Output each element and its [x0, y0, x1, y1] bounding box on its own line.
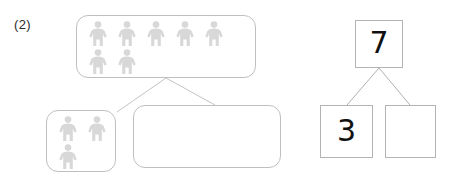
- person-icon: [203, 20, 225, 47]
- person-icon: [87, 48, 109, 75]
- icon-row: [57, 115, 107, 142]
- number-bond-whole-box: 7: [355, 20, 403, 68]
- problem-number-label: (2): [14, 18, 31, 31]
- picture-connector-right: [166, 78, 215, 105]
- number-bond-part-a-box: 3: [320, 105, 373, 158]
- bond-connector-left: [347, 68, 379, 105]
- person-icon: [116, 20, 138, 47]
- worksheet-canvas: (2): [0, 0, 455, 179]
- icon-row: [87, 20, 247, 47]
- number-bond-part-a-value: 3: [337, 116, 356, 146]
- part-right-icon-grid: [134, 106, 280, 167]
- part-right-box[interactable]: [133, 105, 281, 168]
- person-icon: [116, 48, 138, 75]
- person-icon: [57, 143, 79, 170]
- bond-connector-right: [379, 68, 410, 105]
- number-bond-part-b-box[interactable]: [385, 105, 436, 158]
- person-icon: [145, 20, 167, 47]
- part-left-icon-grid: [47, 111, 115, 171]
- whole-group-icon-grid: [77, 16, 255, 77]
- icon-row: [57, 143, 107, 170]
- person-icon: [57, 115, 79, 142]
- person-icon: [174, 20, 196, 47]
- person-icon: [87, 20, 109, 47]
- part-left-box: [46, 110, 116, 172]
- icon-row: [87, 48, 247, 75]
- whole-group-box: [76, 15, 256, 78]
- person-icon: [86, 115, 108, 142]
- number-bond-whole-value: 7: [369, 28, 388, 58]
